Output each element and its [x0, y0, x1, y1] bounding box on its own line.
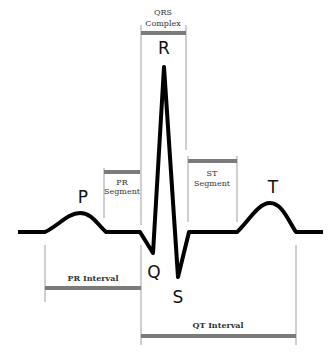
t-wave-label: T [267, 177, 279, 197]
qt-interval-bracket: QT Interval [141, 245, 296, 345]
ecg-waveform [18, 67, 323, 277]
qrs-label-line1: QRS [154, 8, 172, 17]
p-wave-label: P [78, 187, 88, 207]
st-segment-bracket: ST Segment [188, 156, 237, 222]
pr-interval-bracket: PR Interval [45, 245, 141, 302]
q-wave-label: Q [147, 262, 160, 282]
s-wave-label: S [173, 287, 184, 307]
st-segment-label-line2: Segment [194, 179, 231, 188]
pr-segment-label-line2: Segment [104, 187, 141, 196]
pr-segment-bracket: PR Segment [104, 168, 141, 218]
qrs-label-line2: Complex [145, 19, 181, 28]
ecg-diagram: QRS Complex PR Segment ST Segment PR Int… [0, 0, 335, 360]
pr-segment-label-line1: PR [116, 178, 128, 187]
pr-interval-label: PR Interval [68, 273, 119, 283]
qt-interval-label: QT Interval [192, 320, 243, 330]
st-segment-label-line1: ST [207, 169, 218, 178]
r-wave-label: R [158, 38, 170, 58]
